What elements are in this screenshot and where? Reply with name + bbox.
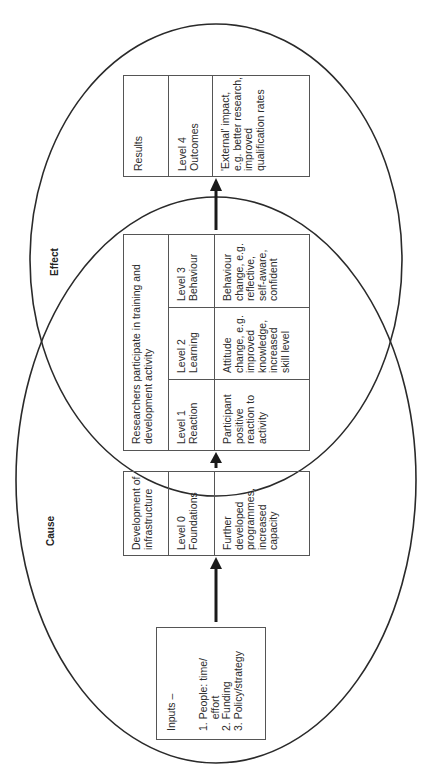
arrow-inputs-to-infrastructure [210,557,222,622]
level-0-label: Level 0 Foundations [176,492,199,550]
divider [214,471,215,556]
inputs-title: Inputs – [166,694,178,731]
results-box [123,75,310,177]
level-3-description: Behaviour change, e.g. reflective, self-… [222,243,280,301]
level-2-description: Attitude change, e.g. improved knowledge… [222,315,291,373]
divider [168,75,169,177]
level-1-description: Participant positive reaction to activit… [222,394,268,444]
infrastructure-header: Development of infrastructure [131,476,154,550]
divider [214,234,215,451]
inputs-item-1: 1. People: time/ effort [198,658,221,731]
divider [168,307,310,308]
level-3-label: Level 3 Behaviour [176,254,199,301]
arrow-infrastructure-to-activity [210,452,222,468]
inputs-item-3: 3. Policy/strategy [233,651,245,731]
results-description: 'External' impact, e.g. better research,… [220,77,266,171]
results-level: Level 4 Outcomes [177,123,200,171]
level-2-label: Level 2 Learning [176,332,199,373]
activity-header: Researchers participate in training and … [131,264,154,444]
level-0-description: Further developed programmes, increased … [222,488,280,550]
cause-label: Cause [45,516,56,546]
level-1-label: Level 1 Reaction [176,403,199,444]
inputs-item-2: 2. Funding [221,681,233,731]
divider [168,471,169,556]
effect-label: Effect [49,248,60,276]
divider [168,234,169,451]
divider [212,75,213,177]
results-header: Results [133,136,145,171]
divider [168,379,310,380]
arrow-activity-to-results [210,178,222,230]
